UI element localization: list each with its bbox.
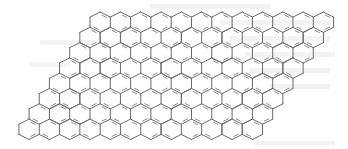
single-bond [273,12,283,17]
single-bond [120,58,130,63]
single-bond [141,134,151,139]
single-bond [49,73,59,78]
single-bond [212,134,222,139]
single-bond [80,27,90,32]
single-bond [181,27,191,32]
single-bond [29,104,39,109]
single-bond [80,58,90,63]
single-bond [19,119,29,124]
single-bond [293,73,303,78]
single-bond [202,58,212,63]
single-bond [212,12,222,17]
single-bond [110,104,120,109]
single-bond [60,89,70,94]
polycyclic-aromatic-structure [0,0,348,149]
single-bond [110,43,120,48]
single-bond [120,119,130,124]
single-bond [252,12,262,17]
single-bond [222,27,232,32]
single-bond [171,73,181,78]
single-bond [171,134,181,139]
single-bond [19,134,29,139]
single-bond [232,12,242,17]
single-bond [80,119,90,124]
single-bond [100,89,110,94]
single-bond [100,134,110,139]
single-bond [90,12,100,17]
single-bond [192,12,202,17]
single-bond [141,89,151,94]
single-bond [192,43,202,48]
single-bond [39,89,49,94]
single-bond [60,58,70,63]
single-bond [293,12,303,17]
single-bond [313,43,323,48]
single-bond [90,134,100,139]
single-bond [313,12,323,17]
single-bond [273,43,283,48]
single-bond [263,89,273,94]
bond-skeleton-layer [19,12,334,140]
single-bond [90,73,100,78]
single-bond [252,73,262,78]
single-bond [100,27,110,32]
single-bond [303,27,313,32]
single-bond [263,27,273,32]
single-bond [110,12,120,17]
single-bond [151,12,161,17]
single-bond [232,43,242,48]
single-bond [222,134,232,139]
single-bond [141,27,151,32]
single-bond [202,119,212,124]
single-bond [181,134,191,139]
single-bond [70,104,80,109]
single-bond [151,43,161,48]
single-bond [60,134,70,139]
single-bond [232,104,242,109]
single-bond [161,58,171,63]
single-bond [222,89,232,94]
single-bond [161,119,171,124]
single-bond [242,119,252,124]
single-bond [39,119,49,124]
single-bond [171,12,181,17]
single-bond [181,89,191,94]
single-bond [192,104,202,109]
single-bond [242,58,252,63]
single-bond [212,73,222,78]
single-bond [49,134,59,139]
single-bond [131,73,141,78]
single-bond [131,12,141,17]
single-bond [283,58,293,63]
single-bond [131,134,141,139]
single-bond [273,104,283,109]
single-bond [151,104,161,109]
single-bond [252,134,262,139]
single-bond [70,43,80,48]
